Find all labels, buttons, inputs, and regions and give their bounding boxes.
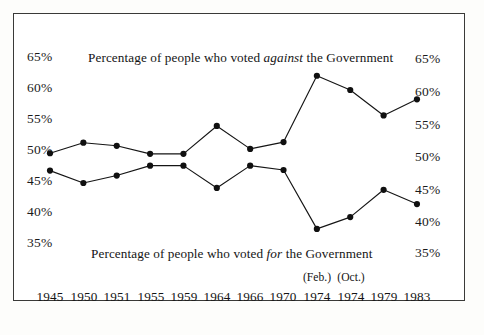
y-axis-right-tick-35: 35% bbox=[415, 246, 440, 260]
y-axis-right-tick-50: 50% bbox=[415, 150, 440, 164]
caption-for-emphasis: for bbox=[267, 246, 283, 261]
y-axis-left-tick-40: 40% bbox=[27, 205, 52, 219]
x-axis-year-1959: 1959 bbox=[170, 290, 197, 303]
caption-for-government: Percentage of people who voted for the G… bbox=[91, 247, 372, 260]
chart-figure: 65% 60% 55% 50% 45% 40% 35% 65% 60% 55% … bbox=[0, 0, 484, 335]
caption-against-government: Percentage of people who voted against t… bbox=[88, 51, 393, 64]
x-axis-month-1974-oct: (Oct.) bbox=[337, 272, 364, 284]
x-axis-month-1974-feb: (Feb.) bbox=[303, 272, 331, 284]
x-axis-year-1974-feb: 1974 bbox=[303, 290, 330, 303]
y-axis-right-tick-60: 60% bbox=[415, 85, 440, 99]
x-axis-year-1945: 1945 bbox=[36, 290, 63, 303]
x-axis-year-1951: 1951 bbox=[103, 290, 130, 303]
x-axis-year-1950: 1950 bbox=[70, 290, 97, 303]
x-axis-year-1974-oct: 1974 bbox=[337, 290, 364, 303]
caption-for-suffix: the Government bbox=[282, 246, 372, 261]
y-axis-right-tick-55: 55% bbox=[415, 118, 440, 132]
y-axis-left-tick-35: 35% bbox=[27, 236, 52, 250]
y-axis-left-tick-65: 65% bbox=[27, 50, 52, 64]
caption-against-emphasis: against bbox=[264, 50, 304, 65]
x-axis-year-1955: 1955 bbox=[137, 290, 164, 303]
y-axis-left-tick-60: 60% bbox=[27, 81, 52, 95]
y-axis-left-tick-50: 50% bbox=[27, 143, 52, 157]
x-axis-year-1970: 1970 bbox=[269, 290, 296, 303]
y-axis-left-tick-45: 45% bbox=[27, 174, 52, 188]
y-axis-left-tick-55: 55% bbox=[27, 112, 52, 126]
y-axis-right-tick-45: 45% bbox=[415, 183, 440, 197]
y-axis-right-tick-40: 40% bbox=[415, 215, 440, 229]
x-axis-year-1983: 1983 bbox=[403, 290, 430, 303]
x-axis-year-1964: 1964 bbox=[203, 290, 230, 303]
y-axis-right-tick-65: 65% bbox=[415, 52, 440, 66]
x-axis-year-1966: 1966 bbox=[236, 290, 263, 303]
caption-for-prefix: Percentage of people who voted bbox=[91, 246, 267, 261]
x-axis-year-1979: 1979 bbox=[370, 290, 397, 303]
caption-against-suffix: the Government bbox=[303, 50, 393, 65]
caption-against-prefix: Percentage of people who voted bbox=[88, 50, 264, 65]
